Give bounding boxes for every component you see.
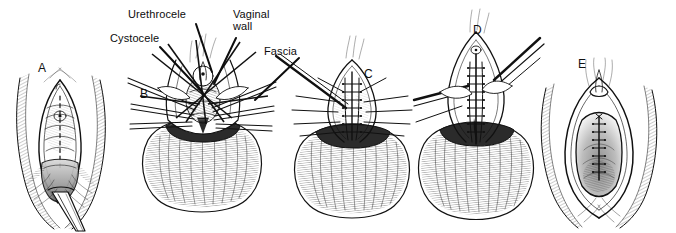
panel-label-e: E — [578, 58, 586, 70]
callout-label-fascia: Fascia — [264, 46, 297, 58]
panel-label-b: B — [140, 88, 148, 100]
callout-label-vaginal-wall: Vaginal wall — [233, 9, 270, 32]
illustration-artwork — [0, 0, 676, 233]
panel-label-c: C — [364, 68, 373, 80]
callout-label-urethrocele: Urethrocele — [128, 9, 186, 21]
panel-label-a: A — [38, 62, 46, 74]
callout-label-cystocele: Cystocele — [110, 33, 159, 45]
panel-label-d: D — [473, 24, 482, 36]
surgical-illustration-figure: A B C D E Urethrocele Cystocele Vaginal … — [0, 0, 676, 233]
